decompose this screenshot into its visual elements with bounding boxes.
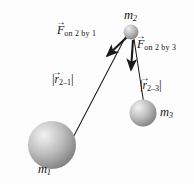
- gravitation-three-mass-diagram: m1 m2 m3 →Fon 2 by 1 →Fon 2 by 3 |→r2–1|…: [0, 0, 194, 184]
- force-label-on-2-by-1: →Fon 2 by 1: [57, 24, 96, 36]
- vector-arrow-icon: →: [140, 73, 150, 83]
- diagram-vector-layer: [0, 0, 194, 184]
- abs-bar-right: |: [71, 71, 74, 86]
- vector-arrow-icon: →: [56, 17, 66, 27]
- mass-sphere-m1: [28, 121, 76, 169]
- mass-label-m1: m1: [38, 163, 51, 176]
- vector-arrow-icon: →: [136, 31, 146, 41]
- distance-line-r21: [66, 36, 126, 151]
- mass-label-m2: m2: [124, 9, 137, 22]
- force-label-on-2-by-3: →Fon 2 by 3: [137, 38, 176, 50]
- mass-label-m3: m3: [160, 106, 173, 119]
- distance-label-r21: |→r2–1|: [52, 72, 74, 86]
- force-vector-on-2-by-3: [131, 40, 133, 70]
- abs-bar-right: |: [159, 77, 162, 92]
- vector-arrow-icon: →: [52, 67, 62, 77]
- mass-sphere-m3: [130, 100, 157, 127]
- distance-label-r23: |→r2–3|: [140, 78, 162, 92]
